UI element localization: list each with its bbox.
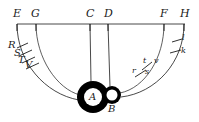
circle-label-A: A xyxy=(89,92,96,102)
mark-label-V: V xyxy=(25,60,32,70)
arc-G-to-A xyxy=(36,24,80,95)
point-label-H: H xyxy=(180,8,190,19)
radius-line-C xyxy=(90,24,91,82)
point-label-G: G xyxy=(31,8,40,19)
mark-label-s: s xyxy=(145,68,149,76)
mark-label-l: l xyxy=(182,34,185,42)
point-label-F: F xyxy=(160,8,168,19)
diagram-canvas: E G C D F H R S T V l k t v r s A B xyxy=(0,0,199,122)
mark-label-r: r xyxy=(132,67,136,75)
mark-label-v: v xyxy=(154,57,159,65)
arc-H-to-B xyxy=(121,24,184,97)
right-hatch-l xyxy=(172,39,182,42)
point-label-D: D xyxy=(104,8,113,19)
point-label-E: E xyxy=(13,8,21,19)
mark-label-k: k xyxy=(181,47,186,55)
radius-line-D xyxy=(108,24,110,87)
point-label-C: C xyxy=(86,8,94,19)
mark-label-t: t xyxy=(143,57,146,65)
circle-label-B: B xyxy=(108,104,115,114)
circle-B-inner-core xyxy=(107,90,118,101)
mark-label-T: T xyxy=(18,55,25,65)
